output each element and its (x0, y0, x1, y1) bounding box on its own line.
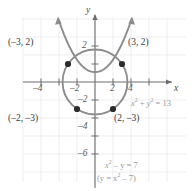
y-tick-label-neg4: –4 (78, 122, 88, 132)
x-tick-label-neg2: –2 (70, 84, 80, 94)
parabola-alt-close: – 7) (120, 173, 136, 183)
parabola-equation-label: x2 – y = 7 (105, 160, 138, 169)
y-tick-label-2: 2 (82, 41, 87, 51)
y-axis-label: y (86, 6, 90, 16)
circle-equation-label: x2 + y2 = 13 (131, 98, 171, 107)
parabola-equation-alt-label: (y = x2 – 7) (97, 173, 136, 182)
x-axis-label: x (174, 84, 178, 94)
x-tick-label-neg4: –4 (33, 84, 43, 94)
point-label-2-neg3: (2, –3) (114, 114, 139, 124)
point-label-neg2-neg3: (–2, –3) (8, 114, 38, 124)
y-tick-label-neg6: –6 (78, 149, 88, 159)
y-tick-label-neg2: –2 (78, 95, 88, 105)
x-tick-label-4: 4 (128, 84, 133, 94)
parabola-right-arrowhead (128, 17, 135, 25)
intersection-point-neg3-2 (65, 61, 71, 67)
parabola-alt-open: (y = x (97, 173, 117, 183)
intersection-point-3-2 (119, 61, 125, 67)
point-label-neg3-2: (–3, 2) (8, 38, 33, 48)
intersection-point-2-neg3 (110, 106, 116, 112)
circle-eq-plus: + (138, 98, 147, 108)
parabola-eq-rhs: – y = 7 (112, 160, 138, 170)
point-label-3-2: (3, 2) (128, 38, 149, 48)
intersection-point-neg2-neg3 (74, 106, 80, 112)
x-tick-label-2: 2 (110, 84, 115, 94)
circle-eq-rhs: = 13 (153, 98, 171, 108)
parabola-left-arrowhead (55, 17, 62, 25)
graph-figure: (–3, 2) (3, 2) (–2, –3) (2, –3) –4 –2 2 … (0, 0, 196, 191)
x-axis-arrowhead (166, 79, 172, 84)
y-axis-arrowhead (92, 14, 97, 20)
coordinate-plane (0, 0, 196, 191)
